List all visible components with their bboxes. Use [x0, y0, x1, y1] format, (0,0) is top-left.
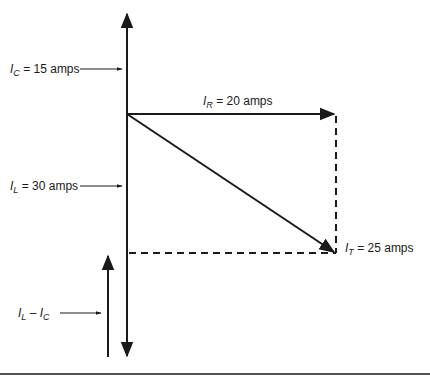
- il-minus-ic-label: IL – IC: [18, 306, 50, 320]
- il-label: IL = 30 amps: [10, 179, 78, 193]
- ir-label: IR = 20 amps: [203, 94, 273, 108]
- it-vector: [127, 114, 334, 252]
- ic-value: = 15 amps: [20, 62, 80, 76]
- ir-value: = 20 amps: [213, 94, 273, 108]
- diff-subscript2: C: [43, 312, 50, 322]
- ic-label: IC = 15 amps: [10, 62, 80, 76]
- il-value: = 30 amps: [18, 179, 78, 193]
- it-value: = 25 amps: [354, 241, 414, 255]
- it-label: IT = 25 amps: [345, 241, 414, 255]
- diff-minus: –: [26, 306, 39, 320]
